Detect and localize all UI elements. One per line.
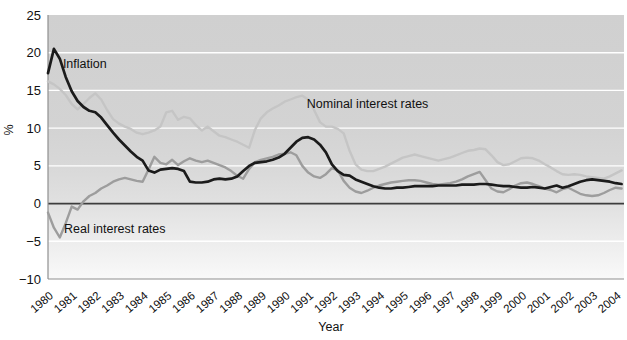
x-tick-label-1998: 1998	[454, 289, 481, 315]
x-tick-label-1980: 1980	[28, 289, 55, 315]
x-tick-label-2000: 2000	[501, 289, 528, 315]
x-tick-label-1986: 1986	[170, 289, 197, 315]
x-tick-label-1981: 1981	[52, 289, 79, 315]
x-tick-label-1984: 1984	[123, 289, 151, 315]
interest-rates-figure: 2520151050−5−10%198019811982198319841985…	[0, 0, 627, 340]
x-tick-label-1987: 1987	[194, 289, 221, 315]
x-tick-label-1985: 1985	[146, 289, 173, 315]
y-tick-label-5: 5	[34, 158, 41, 173]
line-chart: 2520151050−5−10%198019811982198319841985…	[0, 0, 627, 340]
x-tick-label-2002: 2002	[548, 289, 575, 315]
x-tick-label-1992: 1992	[312, 289, 339, 315]
y-axis-title: %	[2, 124, 16, 135]
y-tick-label-20: 20	[27, 45, 41, 60]
y-tick-label-25: 25	[27, 8, 41, 23]
x-tick-label-1997: 1997	[430, 289, 457, 315]
y-tick-label-−10: −10	[19, 272, 41, 287]
x-tick-label-2001: 2001	[525, 289, 552, 315]
x-tick-label-1993: 1993	[335, 289, 362, 315]
annotation-real-interest-rates: Real interest rates	[64, 222, 165, 236]
x-tick-label-1996: 1996	[406, 289, 433, 315]
y-tick-label-−5: −5	[26, 234, 41, 249]
x-tick-label-1989: 1989	[241, 289, 268, 315]
x-tick-label-1982: 1982	[75, 289, 102, 315]
x-tick-label-1988: 1988	[217, 289, 244, 315]
x-tick-label-1999: 1999	[477, 289, 504, 315]
y-tick-label-15: 15	[27, 83, 41, 98]
x-tick-label-1990: 1990	[265, 289, 292, 315]
plot-area	[48, 15, 624, 279]
y-tick-label-10: 10	[27, 121, 41, 136]
annotation-inflation: Inflation	[63, 57, 107, 71]
x-tick-label-1983: 1983	[99, 289, 126, 315]
x-tick-label-2003: 2003	[572, 289, 599, 315]
annotation-nominal-interest-rates: Nominal interest rates	[307, 97, 429, 111]
x-tick-label-1995: 1995	[383, 289, 410, 315]
y-tick-label-0: 0	[34, 196, 41, 211]
x-tick-label-2004: 2004	[596, 289, 624, 315]
x-tick-label-1991: 1991	[288, 289, 315, 315]
x-tick-label-1994: 1994	[359, 289, 387, 315]
x-axis-title: Year	[318, 320, 343, 334]
